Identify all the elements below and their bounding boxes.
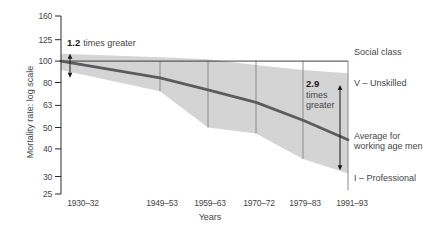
- class-range-band: [61, 54, 348, 174]
- annotation-1930-ratio: 1.2: [67, 37, 80, 48]
- mortality-chart-canvas: 1601251008063504030251930–321949–531959–…: [0, 0, 430, 234]
- gap-arrow-head-down: [68, 73, 73, 78]
- legend-label-professional: I – Professional: [354, 173, 416, 183]
- y-tick-label: 80: [43, 78, 53, 88]
- x-tick-label: 1949–53: [146, 198, 178, 208]
- y-tick-label: 50: [43, 123, 53, 133]
- y-tick-label: 100: [38, 56, 52, 66]
- y-axis-title: Mortality rate: log scale: [25, 54, 35, 170]
- legend-header: Social class: [354, 47, 402, 57]
- y-tick-label: 40: [43, 144, 53, 154]
- annotation-1991-ratio: 2.9: [306, 79, 340, 89]
- annotation-1930-text: times greater: [83, 38, 136, 48]
- annotation-1991-text: times greater: [306, 90, 335, 110]
- y-tick-label: 25: [43, 189, 53, 199]
- x-axis-title: Years: [192, 212, 228, 222]
- x-tick-label: 1930–32: [67, 198, 99, 208]
- legend-label-unskilled: V – Unskilled: [354, 78, 407, 88]
- x-tick-label: 1991–93: [336, 198, 368, 208]
- annotation-1991-gap: 2.9times greater: [306, 79, 340, 110]
- legend-label-average: Average for working age men: [354, 131, 426, 151]
- mortality-social-class-figure: 1601251008063504030251930–321949–531959–…: [0, 0, 430, 234]
- y-tick-label: 125: [38, 35, 52, 45]
- annotation-1930-gap: 1.2times greater: [67, 37, 136, 48]
- y-tick-label: 63: [43, 100, 53, 110]
- x-tick-label: 1979–83: [289, 198, 321, 208]
- y-tick-label: 30: [43, 172, 53, 182]
- y-tick-label: 160: [38, 11, 52, 21]
- x-tick-label: 1970–72: [243, 198, 275, 208]
- x-tick-label: 1959–63: [194, 198, 226, 208]
